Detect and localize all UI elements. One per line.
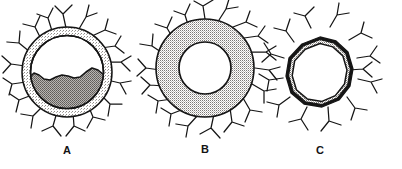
panel-b-group — [137, 0, 280, 138]
panel-label-b: B — [190, 143, 220, 155]
panel-a-group — [2, 5, 131, 136]
panel-c-group — [259, 3, 382, 131]
figure-container: A B C — [0, 0, 402, 169]
panel-label-c: C — [305, 144, 335, 156]
panel-b-core — [179, 42, 231, 94]
panel-label-a: A — [52, 144, 82, 156]
